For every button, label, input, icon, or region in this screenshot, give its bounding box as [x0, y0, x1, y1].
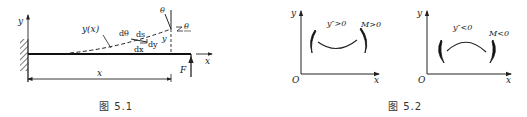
right-origin-label: O — [418, 75, 426, 85]
figure-cantilever-deflection: y x y(x) dθ ds dy dx y θ θ F — [0, 0, 260, 117]
right-moment-label: M<0 — [488, 29, 509, 38]
theta-angle-mark — [176, 27, 183, 31]
dy-label: dy — [148, 40, 158, 49]
theta-right-label: θ — [184, 22, 189, 31]
left-moment-label: M>0 — [360, 20, 381, 29]
right-y-label: y — [416, 8, 423, 18]
span-label: x — [97, 68, 102, 78]
y-axis-label: y — [17, 16, 24, 26]
panel-negative-moment: y x O y″<0 M<0 — [416, 8, 511, 85]
concave-up-curve — [318, 40, 357, 49]
left-x-label: x — [374, 75, 379, 85]
figure-1-caption: 图 5.1 — [99, 98, 133, 113]
dtheta-label: dθ — [119, 29, 129, 38]
deflection-leader — [103, 35, 111, 48]
figure-2-caption: 图 5.2 — [388, 98, 422, 113]
ds-line — [131, 39, 147, 42]
force-label: F — [179, 65, 187, 75]
panel-positive-moment: y x O y″>0 M>0 — [290, 8, 381, 85]
figure-curvature-sign: y x O y″>0 M>0 y x O y″<0 M<0 图 — [260, 0, 527, 117]
right-curvature-label: y″<0 — [452, 23, 472, 32]
right-moment-arc — [360, 28, 367, 53]
left-moment-arc — [311, 30, 316, 53]
left-curvature-label: y″>0 — [326, 19, 346, 28]
tip-rotated — [165, 14, 171, 29]
left-moment-arc — [439, 40, 444, 63]
left-y-label: y — [290, 8, 297, 18]
x-axis-label: x — [205, 56, 210, 66]
left-origin-label: O — [292, 75, 300, 85]
fixed-wall-hatch — [20, 39, 28, 71]
dx-label: dx — [134, 45, 144, 54]
right-x-label: x — [506, 75, 511, 85]
ds-label: ds — [136, 30, 145, 39]
deflection-label: y(x) — [81, 24, 100, 34]
theta-top-label: θ — [160, 6, 165, 15]
right-moment-arc — [490, 40, 495, 63]
deflection-y-label: y — [161, 34, 167, 43]
concave-down-curve — [447, 42, 486, 52]
